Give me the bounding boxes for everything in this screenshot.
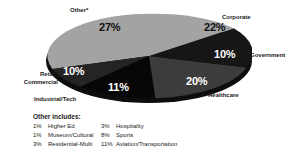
footnote-row: 3%Residential-Multi11%Aviation/Transport…: [33, 140, 278, 149]
footnote-row: 1%Higher Ed3%Hospitality: [33, 122, 278, 131]
footnote-item: 1%Museum/Cultural: [33, 131, 101, 140]
pie-label-retail-line2: Commercial: [0, 79, 58, 87]
footnote-item: 1%Higher Ed: [33, 122, 101, 131]
pie-label-industrial: Industrial/Tech: [34, 96, 76, 104]
footnote-rows: 1%Higher Ed3%Hospitality1%Museum/Cultura…: [33, 122, 278, 149]
pie-value-healthcare: 20%: [186, 76, 207, 87]
footnote-title: Other includes:: [33, 112, 278, 121]
footnote-item-label: Residential-Multi: [48, 140, 92, 149]
footnote-item-label: Hospitality: [116, 122, 144, 131]
pie-label-retail-line1: Retail/: [0, 71, 58, 79]
footnote-item-percent: 8%: [101, 131, 116, 140]
pie-value-industrial: 11%: [108, 82, 129, 93]
footnote-item: 8%Sports: [101, 131, 221, 140]
footnote-item-label: Higher Ed: [48, 122, 75, 131]
footnote: Other includes: 1%Higher Ed3%Hospitality…: [33, 112, 278, 149]
pie-label-government: Government: [250, 52, 285, 60]
footnote-item-percent: 1%: [33, 131, 48, 140]
pie-value-corporate: 22%: [204, 22, 225, 33]
footnote-item: 3%Hospitality: [101, 122, 221, 131]
footnote-row: 1%Museum/Cultural8%Sports: [33, 131, 278, 140]
pie-value-retail: 10%: [63, 66, 84, 77]
footnote-item-label: Sports: [116, 131, 133, 140]
footnote-item-percent: 3%: [33, 140, 48, 149]
pie-value-government: 10%: [214, 49, 235, 60]
pie-label-corporate: Corporate: [222, 14, 251, 22]
footnote-item-percent: 1%: [33, 122, 48, 131]
pie-chart: 27% 22% 10% 20% 11% 10% Other* Corporate…: [0, 0, 297, 110]
pie-value-other: 27%: [99, 22, 120, 33]
pie-label-other: Other*: [70, 7, 88, 15]
footnote-item: 11%Aviation/Transportation: [101, 140, 221, 149]
footnote-item-label: Aviation/Transportation: [116, 140, 177, 149]
footnote-item-percent: 3%: [101, 122, 116, 131]
pie-label-retail: Retail/ Commercial: [0, 71, 58, 86]
footnote-item: 3%Residential-Multi: [33, 140, 101, 149]
pie-label-healthcare: Healthcare: [208, 92, 239, 100]
footnote-item-label: Museum/Cultural: [48, 131, 93, 140]
footnote-item-percent: 11%: [101, 140, 116, 149]
